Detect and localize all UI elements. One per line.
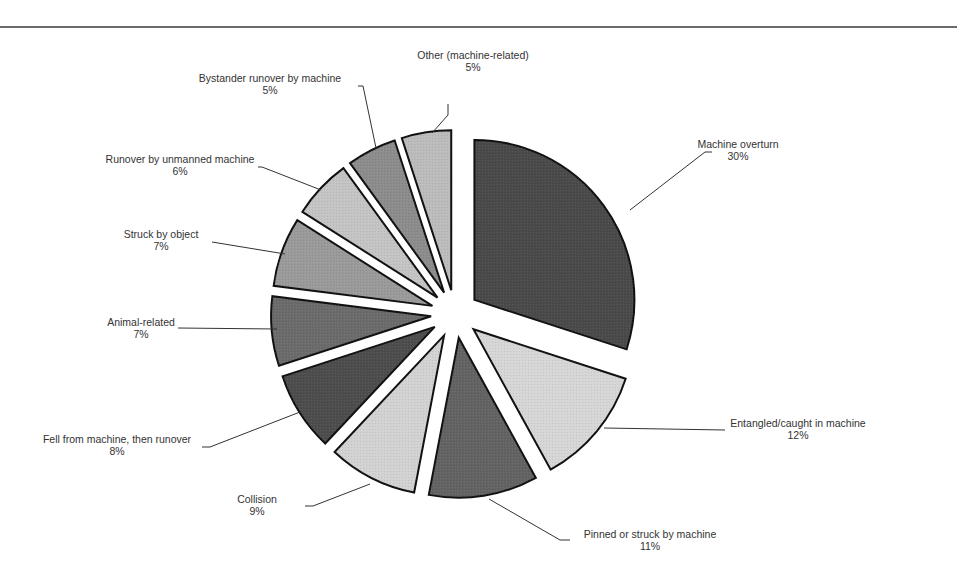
slice-percent-pinned-or-struck-by-machine: 11% — [640, 540, 660, 552]
leader-line-bystander-runover-by-machine — [358, 86, 376, 148]
slice-percent-bystander-runover-by-machine: 5% — [262, 84, 277, 96]
leader-line-fell-from-machine-then-runover — [202, 412, 300, 447]
slice-percent-runover-by-unmanned-machine: 6% — [172, 165, 187, 177]
slice-label-machine-overturn: Machine overturn — [697, 138, 778, 150]
pie-slices — [271, 130, 634, 497]
slice-label-collision: Collision — [237, 493, 277, 505]
pie-chart: Machine overturn30%Entangled/caught in m… — [0, 0, 957, 585]
leader-line-animal-related — [178, 328, 277, 329]
slice-percent-other-machine-related: 5% — [465, 61, 480, 73]
slice-label-runover-by-unmanned-machine: Runover by unmanned machine — [106, 153, 255, 165]
slice-texture — [474, 140, 634, 349]
slice-percent-animal-related: 7% — [133, 328, 148, 340]
leader-line-entangled-caught-in-machine — [604, 428, 725, 430]
leader-line-machine-overturn — [630, 152, 712, 210]
slice-label-other-machine-related: Other (machine-related) — [417, 49, 528, 61]
slice-percent-collision: 9% — [249, 505, 264, 517]
leader-line-pinned-or-struck-by-machine — [489, 499, 570, 540]
leader-line-struck-by-object — [212, 242, 285, 254]
slice-percent-entangled-caught-in-machine: 12% — [787, 429, 808, 441]
slice-percent-struck-by-object: 7% — [153, 240, 168, 252]
leader-line-collision — [305, 484, 370, 506]
slice-percent-fell-from-machine-then-runover: 8% — [109, 445, 124, 457]
slice-label-struck-by-object: Struck by object — [124, 228, 199, 240]
leader-line-runover-by-unmanned-machine — [258, 167, 321, 190]
slice-label-bystander-runover-by-machine: Bystander runover by machine — [199, 72, 342, 84]
slice-percent-machine-overturn: 30% — [727, 150, 748, 162]
slice-label-pinned-or-struck-by-machine: Pinned or struck by machine — [584, 528, 717, 540]
slice-label-fell-from-machine-then-runover: Fell from machine, then runover — [43, 433, 192, 445]
leader-line-other-machine-related — [432, 104, 448, 133]
slice-label-animal-related: Animal-related — [107, 316, 175, 328]
slice-label-entangled-caught-in-machine: Entangled/caught in machine — [730, 417, 866, 429]
